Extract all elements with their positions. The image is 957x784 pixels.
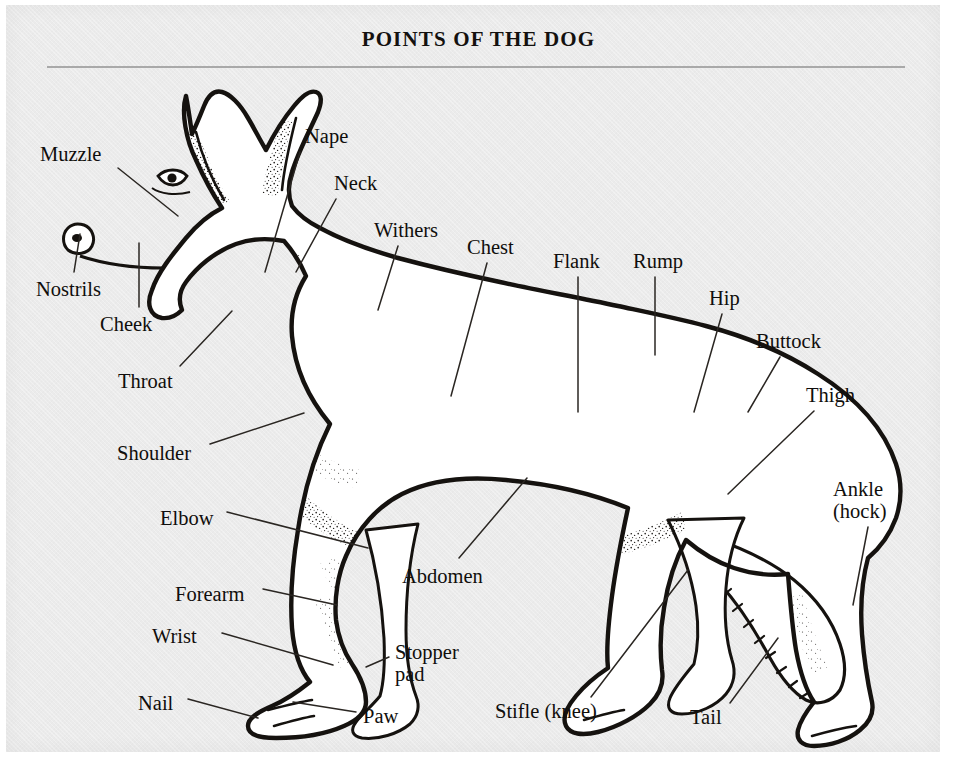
label-nape: Nape — [305, 125, 348, 147]
label-thigh: Thigh — [806, 384, 855, 406]
label-stopper_pad: Stopper pad — [395, 641, 459, 685]
leader-line-shoulder — [210, 413, 304, 444]
label-neck: Neck — [334, 172, 377, 194]
dog-far-hind-leg — [668, 518, 744, 714]
label-nail: Nail — [138, 692, 173, 714]
label-shoulder: Shoulder — [117, 442, 191, 464]
label-muzzle: Muzzle — [40, 143, 101, 165]
label-stifle_knee: Stifle (knee) — [495, 700, 597, 722]
label-paw: Paw — [363, 705, 398, 727]
leader-line-abdomen — [459, 478, 527, 558]
label-buttock: Buttock — [756, 330, 821, 352]
label-hip: Hip — [709, 287, 740, 309]
label-withers: Withers — [374, 219, 438, 241]
label-flank: Flank — [553, 250, 600, 272]
label-elbow: Elbow — [160, 507, 214, 529]
label-throat: Throat — [118, 370, 173, 392]
label-rump: Rump — [633, 250, 683, 272]
dog-mouth-line — [80, 256, 164, 268]
diagram-page: POINTS OF THE DOG — [0, 0, 957, 784]
label-cheek: Cheek — [100, 313, 152, 335]
label-forearm: Forearm — [175, 583, 244, 605]
label-nostrils: Nostrils — [36, 278, 101, 300]
dog-figure — [64, 92, 901, 746]
label-abdomen: Abdomen — [402, 565, 483, 587]
leader-line-throat — [180, 311, 232, 366]
label-tail: Tail — [690, 706, 722, 728]
leader-line-tail — [730, 638, 778, 703]
leader-line-nail — [188, 699, 258, 718]
label-chest: Chest — [467, 236, 514, 258]
label-wrist: Wrist — [152, 625, 197, 647]
label-ankle_hock: Ankle (hock) — [833, 478, 887, 522]
dog-eye — [152, 170, 190, 194]
